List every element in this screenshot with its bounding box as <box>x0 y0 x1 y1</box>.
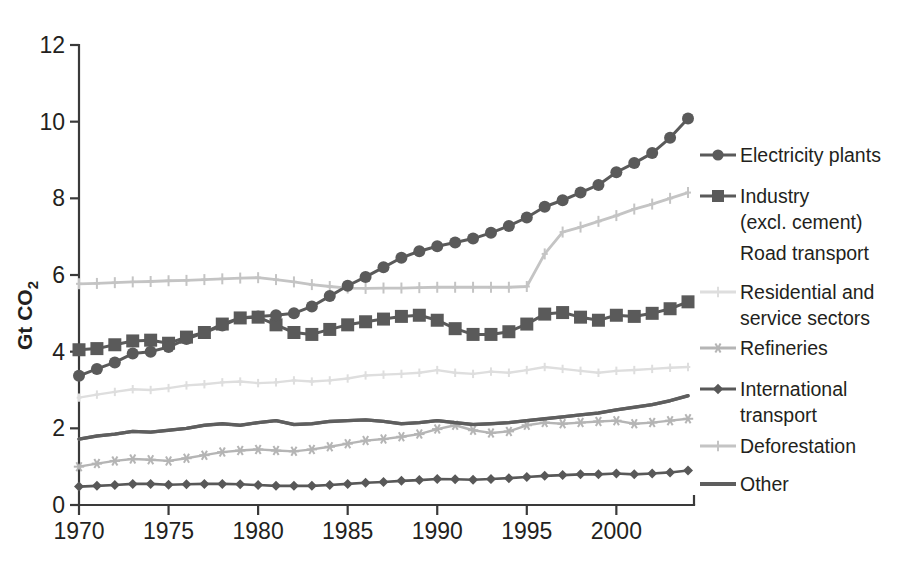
series-marker <box>377 313 390 326</box>
y-axis-tick-label: 10 <box>39 109 65 135</box>
series-marker <box>253 480 263 490</box>
series-marker <box>631 204 637 215</box>
series-marker <box>413 309 426 322</box>
series-marker <box>398 283 404 294</box>
x-axis-tick-label: 1980 <box>233 518 284 544</box>
series-marker <box>252 310 264 322</box>
series-marker <box>378 435 388 444</box>
legend-swatch-marker <box>713 343 723 352</box>
series-marker <box>471 370 476 378</box>
series-marker <box>524 366 529 374</box>
series-marker <box>289 481 299 491</box>
series-marker <box>611 469 621 479</box>
series-marker <box>145 455 155 464</box>
series-marker <box>307 445 317 454</box>
series-marker <box>77 393 82 401</box>
series-marker <box>256 379 261 387</box>
series-marker <box>610 309 623 322</box>
legend-item-road-transport[interactable]: Road transport <box>740 242 870 264</box>
series-marker <box>360 271 372 283</box>
series-marker <box>576 469 586 479</box>
series-marker <box>130 276 136 287</box>
series-marker <box>127 348 139 360</box>
series-marker <box>595 216 601 227</box>
series-marker <box>305 328 318 341</box>
series-marker <box>682 295 695 308</box>
series-marker <box>685 187 691 198</box>
series-marker <box>128 479 138 489</box>
series-marker <box>683 466 693 476</box>
series-marker <box>343 479 353 489</box>
series-marker <box>237 273 243 284</box>
legend-item-electricity-plants[interactable]: Electricity plants <box>700 144 881 166</box>
series-marker <box>417 369 422 377</box>
series-marker <box>542 363 547 371</box>
legend-swatch-marker <box>712 149 723 160</box>
series-marker <box>592 314 605 327</box>
series-marker <box>629 469 639 479</box>
series-marker <box>323 323 336 336</box>
series-marker <box>395 252 407 264</box>
series-marker <box>686 363 691 371</box>
series-marker <box>325 442 335 451</box>
series-marker <box>503 220 515 232</box>
series-marker <box>434 282 440 293</box>
legend-swatch-marker <box>713 384 723 394</box>
series-marker <box>507 369 512 377</box>
series-marker <box>289 447 299 456</box>
series-marker <box>485 227 497 239</box>
legend-label: Deforestation <box>740 435 856 457</box>
series-marker <box>416 282 422 293</box>
series-marker <box>306 300 318 312</box>
series-marker <box>453 369 458 377</box>
series-marker <box>413 245 425 257</box>
legend-item-industry[interactable]: Industry(excl. cement) <box>700 185 862 233</box>
series-marker <box>163 341 175 353</box>
y-axis-label: Gt CO2 <box>13 281 41 350</box>
series-marker <box>668 364 673 372</box>
series-marker <box>414 475 424 485</box>
series-marker <box>292 376 297 384</box>
series-marker <box>274 378 279 386</box>
series-marker <box>647 418 657 427</box>
series-marker <box>342 439 352 448</box>
series-marker <box>198 327 210 339</box>
series-marker <box>574 311 587 324</box>
series-marker <box>74 482 84 492</box>
series-marker <box>646 307 659 320</box>
series-marker <box>359 315 372 328</box>
series-marker <box>488 282 494 293</box>
series-marker <box>327 376 332 384</box>
x-axis-tick-label: 1995 <box>501 518 552 544</box>
series-marker <box>92 481 102 491</box>
series-marker <box>520 318 533 331</box>
series-marker <box>504 473 514 483</box>
series-marker <box>504 427 514 436</box>
series-marker <box>575 418 585 427</box>
legend-item-international[interactable]: Internationaltransport <box>700 378 847 426</box>
series-marker <box>130 385 135 393</box>
series-marker <box>629 419 639 428</box>
series-marker <box>414 430 424 439</box>
series-marker <box>557 419 567 428</box>
series-marker <box>575 187 587 199</box>
legend-item-deforestation[interactable]: Deforestation <box>700 435 856 457</box>
x-axis-tick-label: 2000 <box>591 518 642 544</box>
series-marker <box>163 456 173 465</box>
series-marker <box>486 474 496 484</box>
legend-item-refineries[interactable]: Refineries <box>700 337 828 359</box>
series-marker <box>560 365 565 373</box>
series-marker <box>468 426 478 435</box>
series-marker <box>273 274 279 285</box>
legend-item-other[interactable]: Other <box>700 473 789 495</box>
series-marker <box>396 476 406 486</box>
series-marker <box>578 222 584 233</box>
series-marker <box>253 445 263 454</box>
series-marker <box>449 322 462 335</box>
series-marker <box>325 480 335 490</box>
series-marker <box>628 310 641 323</box>
legend-item-residential-and[interactable]: Residential andservice sectors <box>700 281 874 329</box>
series-marker <box>146 479 156 489</box>
series-marker <box>128 454 138 463</box>
series-marker <box>593 469 603 479</box>
